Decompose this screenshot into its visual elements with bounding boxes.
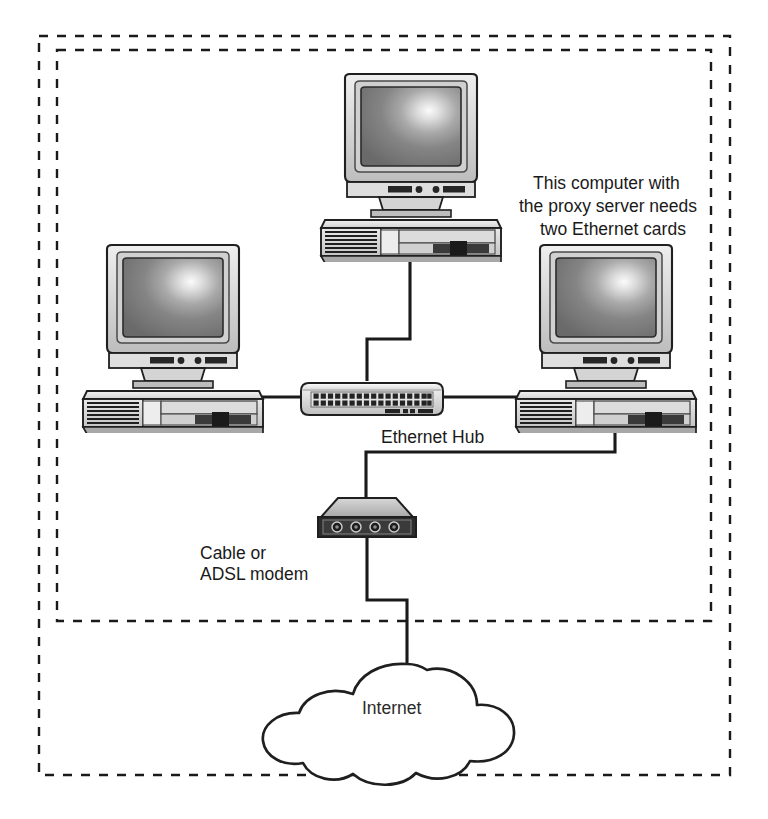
computer-right-proxy-server[interactable] [516, 245, 696, 434]
proxy-note-line-1: This computer with [533, 173, 680, 193]
network-diagram: Ethernet Hub Cable or ADSL modem Interne… [0, 0, 768, 819]
modem-label-line-1: Cable or [200, 543, 266, 563]
ethernet-hub-icon[interactable] [301, 383, 443, 415]
cloud-icon[interactable] [263, 664, 514, 785]
computer-left[interactable] [83, 245, 263, 434]
modem-icon[interactable] [318, 498, 416, 537]
hub-label: Ethernet Hub [381, 427, 484, 447]
link-pctop-hub [367, 250, 410, 381]
network-diagram-canvas: Ethernet Hub Cable or ADSL modem Interne… [0, 0, 768, 819]
proxy-note-line-3: two Ethernet cards [540, 219, 686, 239]
computer-top[interactable] [321, 74, 501, 263]
proxy-note-line-2: the proxy server needs [519, 196, 697, 216]
internet-label: Internet [362, 698, 421, 718]
modem-label-line-2: ADSL modem [200, 564, 308, 584]
link-modem-internet [367, 538, 407, 668]
